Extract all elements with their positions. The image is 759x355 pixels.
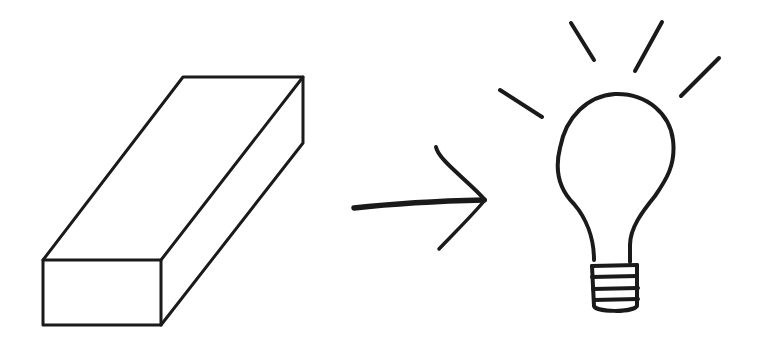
block-right-face <box>161 77 303 325</box>
arrow-right-icon <box>354 147 485 249</box>
ray-2 <box>635 22 662 71</box>
block-icon <box>43 77 303 325</box>
diagram-canvas: Hand-drawn sketch: a rectangular block (… <box>0 0 759 355</box>
arrow-head-top <box>436 147 485 200</box>
bulb-glass <box>558 94 674 262</box>
block-front-face <box>43 260 161 325</box>
base-line-1 <box>592 265 637 266</box>
base-line-4 <box>594 299 638 300</box>
block-top-face <box>43 77 303 260</box>
light-bulb-icon <box>500 22 719 311</box>
base-line-3 <box>593 288 638 289</box>
ray-4 <box>500 90 542 117</box>
base-line-2 <box>592 276 637 277</box>
arrow-shaft <box>354 200 484 208</box>
diagram-svg <box>0 0 759 355</box>
ray-3 <box>681 58 719 96</box>
arrow-head-bottom <box>439 200 485 249</box>
ray-1 <box>571 23 594 60</box>
bulb-base <box>592 265 638 311</box>
